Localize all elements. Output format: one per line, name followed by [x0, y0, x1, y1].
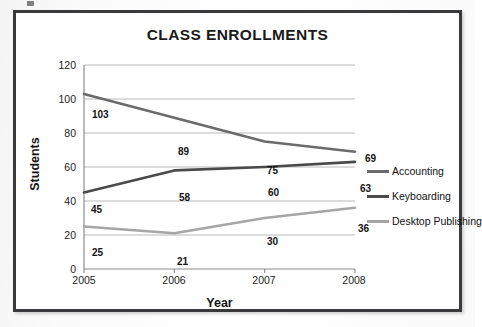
data-label-45: 45 — [91, 204, 102, 215]
chart-legend: Accounting Keyboarding Desktop Publishin… — [367, 161, 475, 236]
chart-canvas — [84, 65, 355, 269]
chart-title: CLASS ENROLLMENTS — [16, 26, 459, 44]
legend-swatch-desktop-publishing — [367, 220, 389, 223]
y-tick-label-40: 40 — [46, 195, 76, 207]
x-tick-label-2006: 2006 — [151, 274, 197, 286]
data-label-58: 58 — [179, 192, 190, 203]
data-label-75: 75 — [267, 165, 278, 176]
gridlines-group — [84, 65, 355, 235]
series-line-desktop-publishing[interactable] — [84, 208, 355, 234]
plot-area: 1038975694558606325213036 — [84, 65, 355, 269]
data-label-103: 103 — [92, 109, 109, 120]
y-axis-title: Students — [28, 121, 42, 207]
y-tick-label-20: 20 — [46, 229, 76, 241]
x-tick-marks — [84, 269, 355, 273]
legend-item-keyboarding[interactable]: Keyboarding — [367, 186, 475, 206]
y-tick-label-60: 60 — [46, 161, 76, 173]
legend-item-accounting[interactable]: Accounting — [367, 161, 475, 181]
data-label-21: 21 — [177, 256, 188, 267]
legend-label-accounting: Accounting — [392, 165, 444, 177]
series-line-accounting[interactable] — [84, 94, 355, 152]
data-label-89: 89 — [178, 146, 189, 157]
legend-label-desktop-publishing: Desktop Publishing — [392, 215, 482, 227]
legend-swatch-accounting — [367, 170, 389, 173]
chart-figure-frame: CLASS ENROLLMENTS Students Year 120 100 … — [13, 10, 462, 312]
x-tick-label-2007: 2007 — [241, 274, 287, 286]
legend-item-desktop-publishing[interactable]: Desktop Publishing — [367, 211, 475, 231]
legend-swatch-keyboarding — [367, 195, 389, 198]
data-label-60: 60 — [268, 187, 279, 198]
x-tick-label-2008: 2008 — [331, 274, 377, 286]
data-series-group — [84, 94, 355, 233]
x-axis-title: Year — [84, 296, 355, 310]
series-line-keyboarding[interactable] — [84, 162, 355, 193]
scan-artifact-speck — [27, 1, 34, 6]
data-label-30: 30 — [267, 236, 278, 247]
y-tick-label-80: 80 — [46, 127, 76, 139]
y-tick-label-100: 100 — [46, 93, 76, 105]
data-label-25: 25 — [92, 247, 103, 258]
y-tick-label-120: 120 — [46, 59, 76, 71]
legend-label-keyboarding: Keyboarding — [392, 190, 451, 202]
x-tick-label-2005: 2005 — [61, 274, 107, 286]
